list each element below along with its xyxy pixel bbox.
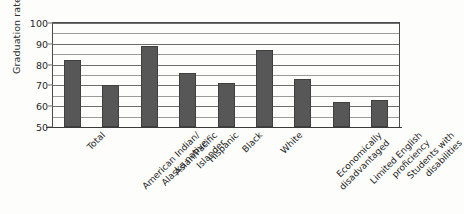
bar	[333, 102, 350, 127]
bar	[294, 79, 311, 127]
y-tick-label: 70	[36, 80, 48, 91]
x-axis-line	[46, 127, 402, 128]
bar	[179, 73, 196, 127]
bar	[141, 46, 158, 127]
bar	[218, 83, 235, 127]
x-tick-label: Total	[85, 130, 107, 152]
bar-series	[53, 23, 399, 127]
x-axis-labels: TotalAmerican Indian/ Alaska nativeAsian…	[52, 130, 400, 214]
bar	[371, 100, 388, 127]
y-axis-title: Graduation rate	[11, 0, 22, 96]
y-tick-label: 80	[36, 59, 48, 70]
y-tick-label: 60	[36, 101, 48, 112]
bar	[256, 50, 273, 127]
y-tick-label: 90	[36, 38, 48, 49]
bar	[102, 85, 119, 127]
plot-area: 5060708090100	[52, 22, 400, 127]
bar	[64, 60, 81, 127]
x-tick-label: Black	[240, 130, 265, 155]
y-tick-label: 100	[30, 18, 48, 29]
x-tick-label: White	[279, 130, 305, 156]
